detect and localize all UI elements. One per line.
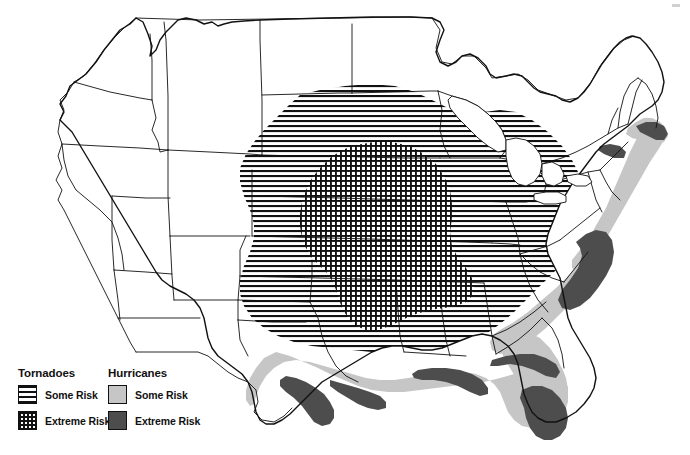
legend-group-tornadoes: Tornadoes Some Risk Extreme Risk [18, 367, 110, 437]
legend-label-tornado-some-risk: Some Risk [45, 389, 98, 401]
swatch-tornado-some-risk [18, 385, 37, 404]
swatch-hurricane-some-risk [108, 385, 127, 404]
legend-item-hurricane-extreme-risk: Extreme Risk [108, 411, 200, 430]
legend-title-tornadoes: Tornadoes [18, 367, 110, 379]
legend-label-tornado-extreme-risk: Extreme Risk [45, 415, 110, 427]
us-risk-map-figure: Tornadoes Some Risk Extreme Risk Hurrica… [0, 0, 690, 455]
legend-item-hurricane-some-risk: Some Risk [108, 385, 200, 404]
legend-title-hurricanes: Hurricanes [108, 367, 200, 379]
legend-label-hurricane-some-risk: Some Risk [135, 389, 188, 401]
legend-group-hurricanes: Hurricanes Some Risk Extreme Risk [108, 367, 200, 437]
legend-label-hurricane-extreme-risk: Extreme Risk [135, 415, 200, 427]
map-legend: Tornadoes Some Risk Extreme Risk Hurrica… [18, 367, 228, 449]
lake-erie [534, 192, 566, 204]
scan-artifact-speck [672, 4, 680, 7]
swatch-tornado-extreme-risk [18, 411, 37, 430]
legend-item-tornado-extreme-risk: Extreme Risk [18, 411, 110, 430]
legend-item-tornado-some-risk: Some Risk [18, 385, 110, 404]
swatch-hurricane-extreme-risk [108, 411, 127, 430]
